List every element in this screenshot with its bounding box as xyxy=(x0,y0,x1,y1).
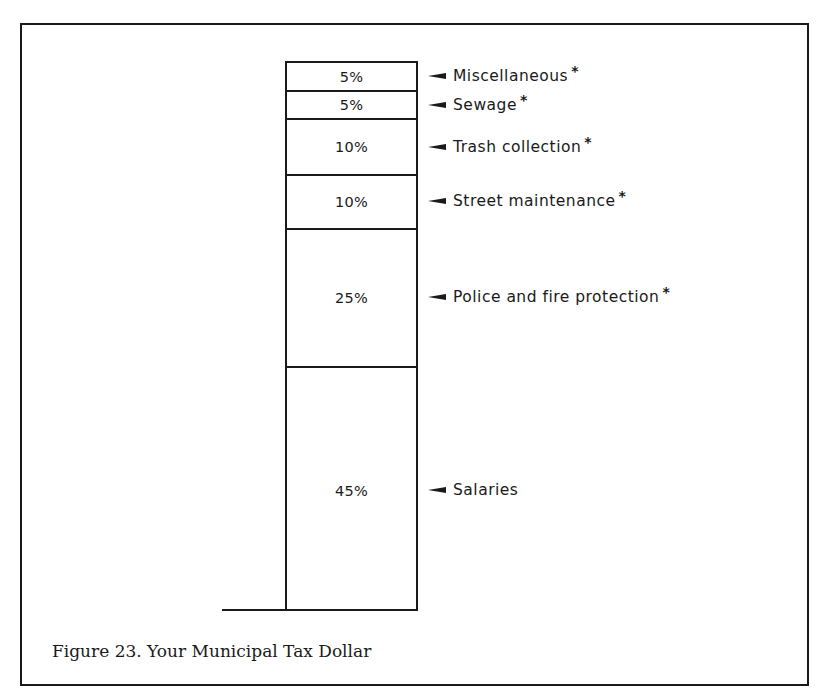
tax-dollar-bar: 5% 5% 10% 10% 25% 45% xyxy=(285,61,418,611)
asterisk-marker: * xyxy=(662,284,670,300)
pointer-arrow-icon xyxy=(428,198,446,204)
asterisk-marker: * xyxy=(571,63,579,79)
segment-value: 45% xyxy=(335,483,368,499)
chart-baseline xyxy=(222,609,418,611)
label-text: Salaries xyxy=(453,481,518,499)
pointer-arrow-icon xyxy=(428,294,446,300)
asterisk-marker: * xyxy=(584,134,592,150)
segment-label-police-fire: Police and fire protection * xyxy=(428,288,670,306)
bar-segment-trash-collection: 10% xyxy=(287,120,416,176)
bar-segment-police-fire: 25% xyxy=(287,230,416,368)
label-text: Street maintenance xyxy=(453,192,616,210)
segment-value: 5% xyxy=(340,69,363,85)
stacked-bar-chart: 5% 5% 10% 10% 25% 45% Miscellaneous * Se… xyxy=(0,0,831,699)
label-text: Trash collection xyxy=(453,138,581,156)
figure-caption: Figure 23. Your Municipal Tax Dollar xyxy=(52,641,371,661)
asterisk-marker: * xyxy=(520,92,528,108)
bar-segment-salaries: 45% xyxy=(287,368,416,613)
pointer-arrow-icon xyxy=(428,102,446,108)
label-text: Sewage xyxy=(453,96,517,114)
segment-value: 5% xyxy=(340,97,363,113)
bar-segment-miscellaneous: 5% xyxy=(287,63,416,92)
label-text: Police and fire protection xyxy=(453,288,659,306)
bar-segment-street-maintenance: 10% xyxy=(287,176,416,230)
segment-label-miscellaneous: Miscellaneous * xyxy=(428,67,579,85)
label-text: Miscellaneous xyxy=(453,67,568,85)
segment-label-sewage: Sewage * xyxy=(428,96,528,114)
pointer-arrow-icon xyxy=(428,73,446,79)
segment-value: 10% xyxy=(335,194,368,210)
segment-label-street-maintenance: Street maintenance * xyxy=(428,192,626,210)
bar-segment-sewage: 5% xyxy=(287,92,416,120)
pointer-arrow-icon xyxy=(428,144,446,150)
asterisk-marker: * xyxy=(619,188,627,204)
segment-label-trash-collection: Trash collection * xyxy=(428,138,592,156)
pointer-arrow-icon xyxy=(428,487,446,493)
segment-value: 10% xyxy=(335,139,368,155)
segment-value: 25% xyxy=(335,290,368,306)
segment-label-salaries: Salaries xyxy=(428,481,518,499)
